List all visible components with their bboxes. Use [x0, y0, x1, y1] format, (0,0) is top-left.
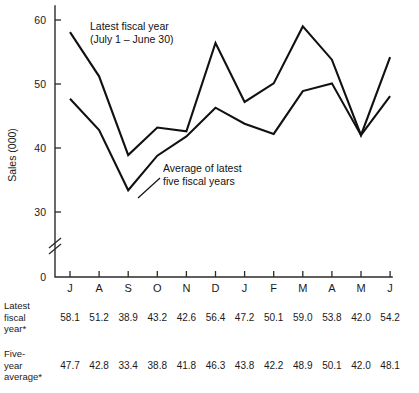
table-row-label-line: average* [4, 371, 52, 383]
annotation-average-five-years-line2: five fiscal years [163, 175, 235, 187]
x-axis-month-label: D [212, 282, 220, 294]
table-row-label-line: Five- [4, 348, 52, 360]
y-axis-tick-label: 60 [34, 14, 46, 26]
sales-line-chart: 304050600JASONDJFMAMJSales (000)Latest f… [0, 0, 419, 300]
table-cell: 58.1 [56, 312, 84, 323]
x-axis-month-label: N [182, 282, 190, 294]
table-cell: 43.8 [231, 360, 259, 371]
table-cell: 56.4 [202, 312, 230, 323]
y-axis-tick-label: 40 [34, 142, 46, 154]
y-axis-tick-label: 30 [34, 206, 46, 218]
table-cell: 33.4 [114, 360, 142, 371]
annotation-latest-fiscal-year-line1: Latest fiscal year [90, 20, 169, 32]
y-axis-tick-label: 50 [34, 78, 46, 90]
x-axis-month-label: J [67, 282, 73, 294]
annotation-average-five-years-line1: Average of latest [163, 162, 242, 174]
x-axis-month-label: A [95, 282, 103, 294]
table-cell: 42.6 [172, 312, 200, 323]
table-cell: 38.9 [114, 312, 142, 323]
table-cell: 42.0 [347, 312, 375, 323]
table-cell: 42.2 [260, 360, 288, 371]
table-cell: 51.2 [85, 312, 113, 323]
table-cell: 53.8 [318, 312, 346, 323]
series-line-latest-fiscal-year [70, 26, 390, 155]
table-cell: 59.0 [289, 312, 317, 323]
x-axis-month-label: J [387, 282, 393, 294]
y-axis-zero-label: 0 [40, 271, 46, 283]
table-row-label-line: fiscal [4, 312, 52, 324]
table-cell: 42.8 [85, 360, 113, 371]
table-cell: 47.7 [56, 360, 84, 371]
table-row-label-line: year* [4, 323, 52, 335]
x-axis-month-label: M [356, 282, 365, 294]
annotation-leader-line [138, 178, 160, 198]
table-cell: 38.8 [143, 360, 171, 371]
x-axis-month-label: O [153, 282, 162, 294]
table-cell: 46.3 [202, 360, 230, 371]
x-axis-month-label: J [242, 282, 248, 294]
table-cell: 54.2 [376, 312, 404, 323]
table-cell: 48.1 [376, 360, 404, 371]
table-cell: 47.2 [231, 312, 259, 323]
table-row-label: Latestfiscalyear* [4, 300, 52, 335]
table-cell: 43.2 [143, 312, 171, 323]
table-cell: 42.0 [347, 360, 375, 371]
table-row-label-line: year [4, 360, 52, 372]
x-axis-month-label: F [270, 282, 277, 294]
table-cell: 50.1 [260, 312, 288, 323]
x-axis-month-label: M [298, 282, 307, 294]
x-axis-month-label: S [125, 282, 132, 294]
annotation-latest-fiscal-year-line2: (July 1 – June 30) [90, 33, 173, 45]
table-row-label-line: Latest [4, 300, 52, 312]
data-value-table: Latestfiscalyear*58.151.238.943.242.656.… [0, 296, 419, 393]
table-cell: 50.1 [318, 360, 346, 371]
table-cell: 41.8 [172, 360, 200, 371]
table-cell: 48.9 [289, 360, 317, 371]
y-axis-title: Sales (000) [6, 128, 18, 182]
table-row-label: Five-yearaverage* [4, 348, 52, 383]
chart-canvas: 304050600JASONDJFMAMJSales (000)Latest f… [0, 0, 419, 300]
x-axis-month-label: A [328, 282, 336, 294]
